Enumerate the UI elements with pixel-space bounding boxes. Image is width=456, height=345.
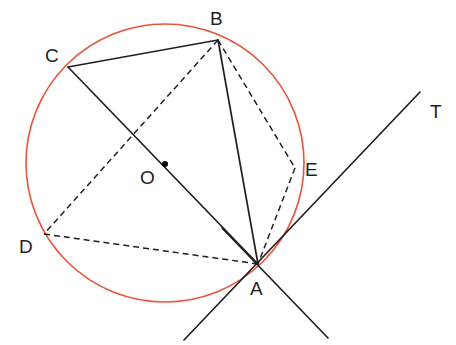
point-label-b: B	[210, 8, 223, 29]
point-label-a: A	[250, 278, 263, 299]
center-point-dot	[162, 161, 168, 167]
geometry-canvas: B C D E A T O	[0, 0, 456, 345]
tangent-line-at	[184, 92, 420, 340]
segment-cb	[68, 40, 218, 67]
point-label-e: E	[305, 159, 318, 180]
center-label-o: O	[140, 167, 155, 188]
geometry-diagram: B C D E A T O	[0, 0, 456, 345]
point-label-d: D	[19, 236, 33, 257]
point-label-t: T	[430, 101, 442, 122]
segment-da	[44, 234, 258, 264]
segment-ea	[258, 168, 295, 264]
point-label-c: C	[45, 45, 59, 66]
